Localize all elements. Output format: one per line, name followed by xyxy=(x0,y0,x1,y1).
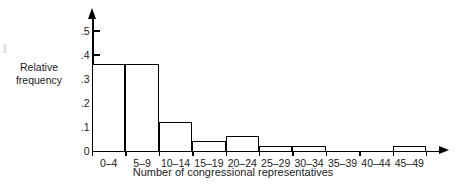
x-tick-5 xyxy=(259,151,260,157)
x-tick-1 xyxy=(125,151,126,157)
x-tick-8 xyxy=(359,151,360,157)
y-axis-label: Relative frequency xyxy=(6,61,72,87)
y-tick-label: .5 xyxy=(81,25,90,37)
y-tick-label: 0 xyxy=(84,145,90,157)
x-axis-label: Number of congressional representatives xyxy=(0,166,466,178)
x-tick-10 xyxy=(426,151,427,157)
histogram-bar-45-49 xyxy=(393,146,426,151)
histogram-bar-15-19 xyxy=(192,141,225,151)
y-tick-label: .3 xyxy=(81,73,90,85)
x-tick-4 xyxy=(226,151,227,157)
x-tick-6 xyxy=(292,151,293,157)
y-tick-0: 0 xyxy=(94,151,101,153)
x-tick-2 xyxy=(159,151,160,157)
y-tick-p4: .4 xyxy=(94,54,101,56)
x-axis-line xyxy=(92,151,440,153)
y-axis-arrow-icon xyxy=(88,8,96,19)
histogram-bar-30-34 xyxy=(292,146,325,151)
x-tick-0 xyxy=(92,151,93,157)
x-tick-9 xyxy=(393,151,394,157)
scan-artifact xyxy=(3,44,7,53)
histogram-bar-25-29 xyxy=(259,146,292,151)
histogram-bar-20-24 xyxy=(226,136,259,150)
x-tick-7 xyxy=(326,151,327,157)
y-tick-p5: .5 xyxy=(94,30,101,32)
y-tick-label: .1 xyxy=(81,121,90,133)
histogram-bar-5-9 xyxy=(125,64,158,151)
x-axis-arrow-icon xyxy=(439,146,449,154)
x-tick-3 xyxy=(192,151,193,157)
histogram-bar-0-4 xyxy=(92,64,125,151)
plot-area: 0.1.2.3.4.5 0–45–910–1415–1920–2425–2930… xyxy=(92,18,444,152)
y-tick-label: .2 xyxy=(81,97,90,109)
histogram-bar-10-14 xyxy=(159,122,192,151)
y-tick-label: .4 xyxy=(81,49,90,61)
histogram-figure: Relative frequency 0.1.2.3.4.5 0–45–910–… xyxy=(0,0,466,187)
